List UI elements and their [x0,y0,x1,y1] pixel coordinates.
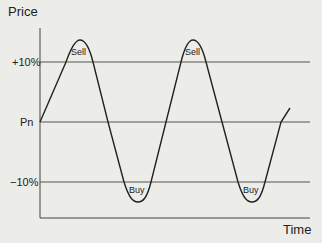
sell-annotation-2: Sell [185,47,200,57]
minus10-label: −10% [10,176,38,188]
sell-annotation-1: Sell [71,47,86,57]
price-cycle-chart: Price Time +10% Pn −10% Sell Sell Buy Bu… [0,0,322,243]
x-axis-title: Time [283,222,311,237]
y-axis-title: Price [8,4,38,19]
plus10-label: +10% [12,56,40,68]
price-curve [40,40,290,202]
buy-annotation-2: Buy [243,185,259,195]
buy-annotation-1: Buy [129,185,145,195]
chart-canvas [0,0,322,243]
pn-label: Pn [20,116,33,128]
